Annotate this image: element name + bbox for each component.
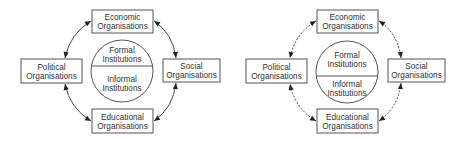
political-organisations-label-line-2: Organisations bbox=[251, 72, 302, 81]
institutions-circle: FormalInstitutionsInformalInstitutions bbox=[91, 40, 153, 102]
connector-bottom-left bbox=[290, 84, 316, 121]
arrowhead-icon bbox=[85, 116, 91, 121]
political-organisations-label-line-2: Organisations bbox=[26, 72, 77, 81]
arrowhead-icon bbox=[398, 52, 403, 58]
arrowhead-icon bbox=[310, 116, 316, 121]
connector-top-right bbox=[379, 21, 401, 58]
informal-institutions-label-line-1: Informal bbox=[332, 80, 362, 89]
educational-organisations-box: EducationalOrganisations bbox=[317, 109, 378, 133]
educational-organisations-label-line-1: Educational bbox=[101, 113, 144, 122]
formal-institutions-label-line-1: Formal bbox=[334, 51, 360, 60]
formal-institutions-label-line-1: Formal bbox=[109, 46, 135, 55]
political-organisations-label-line-1: Political bbox=[37, 63, 65, 72]
informal-institutions-label-line-2: Institutions bbox=[102, 84, 141, 93]
social-organisations-label-line-1: Social bbox=[405, 62, 427, 71]
educational-organisations-label-line-1: Educational bbox=[326, 113, 369, 122]
arrowhead-icon bbox=[379, 115, 385, 121]
arrowhead-icon bbox=[64, 52, 69, 58]
connector-top-left bbox=[290, 21, 316, 58]
diagram-canvas: FormalInstitutionsInformalInstitutionsEc… bbox=[0, 0, 469, 143]
institutions-circle: FormalInstitutionsInformalInstitutions bbox=[316, 41, 378, 103]
economic-organisations-box: EconomicOrganisations bbox=[317, 10, 378, 33]
connector-bottom-left bbox=[65, 84, 91, 121]
political-organisations-label-line-1: Political bbox=[262, 63, 290, 72]
arrowhead-icon bbox=[64, 84, 69, 90]
diagram-right: FormalInstitutionsInformalInstitutionsEc… bbox=[246, 10, 445, 133]
formal-institutions-label-line-2: Institutions bbox=[327, 60, 366, 69]
arrowhead-icon bbox=[173, 52, 178, 58]
connector-top-left bbox=[65, 21, 91, 58]
arrowhead-icon bbox=[398, 83, 403, 89]
connector-bottom-right bbox=[379, 83, 401, 121]
social-organisations-label-line-2: Organisations bbox=[391, 71, 442, 80]
informal-institutions-label-line-1: Informal bbox=[107, 75, 137, 84]
arrowhead-icon bbox=[173, 83, 178, 89]
arrowhead-icon bbox=[379, 21, 385, 26]
arrowhead-icon bbox=[289, 84, 294, 90]
connector-bottom-right bbox=[154, 83, 176, 121]
educational-organisations-label-line-2: Organisations bbox=[97, 122, 148, 131]
diagram-left: FormalInstitutionsInformalInstitutionsEc… bbox=[21, 10, 220, 133]
educational-organisations-label-line-2: Organisations bbox=[322, 122, 373, 131]
economic-organisations-label-line-1: Economic bbox=[105, 13, 141, 22]
social-organisations-box: SocialOrganisations bbox=[163, 59, 220, 82]
economic-organisations-box: EconomicOrganisations bbox=[92, 10, 153, 33]
economic-organisations-label-line-1: Economic bbox=[330, 13, 366, 22]
connector-top-right bbox=[154, 21, 176, 58]
political-organisations-box: PoliticalOrganisations bbox=[21, 59, 82, 83]
arrowhead-icon bbox=[289, 52, 294, 58]
educational-organisations-box: EducationalOrganisations bbox=[92, 109, 153, 133]
arrowhead-icon bbox=[85, 21, 91, 26]
informal-institutions-label-line-2: Institutions bbox=[327, 89, 366, 98]
economic-organisations-label-line-2: Organisations bbox=[322, 22, 373, 31]
social-organisations-label-line-1: Social bbox=[180, 62, 202, 71]
formal-institutions-label-line-2: Institutions bbox=[102, 55, 141, 64]
social-organisations-label-line-2: Organisations bbox=[166, 71, 217, 80]
political-organisations-box: PoliticalOrganisations bbox=[246, 59, 307, 83]
arrowhead-icon bbox=[310, 21, 316, 26]
social-organisations-box: SocialOrganisations bbox=[388, 59, 445, 82]
economic-organisations-label-line-2: Organisations bbox=[97, 22, 148, 31]
